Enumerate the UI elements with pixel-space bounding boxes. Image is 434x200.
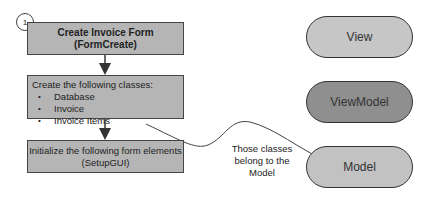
step-create-classes: Create the following classes: Database I… xyxy=(27,75,184,119)
step-subtitle: (FormCreate) xyxy=(74,39,137,51)
step-subtitle: (SetupGUI) xyxy=(81,157,129,169)
step-create-invoice-form: Create Invoice Form (FormCreate) xyxy=(27,22,184,55)
class-item: Invoice Items xyxy=(38,115,179,127)
step-title: Create Invoice Form xyxy=(57,27,153,39)
annotation-line: belong to the xyxy=(222,155,302,167)
step-title: Create the following classes: xyxy=(32,79,179,91)
annotation-line: Model xyxy=(222,167,302,179)
annotation-text: Those classes belong to the Model xyxy=(222,143,302,179)
step-initialize-form: Initialize the following form elements (… xyxy=(27,140,184,173)
step-title: Initialize the following form elements xyxy=(29,145,182,157)
layer-model: Model xyxy=(306,146,413,188)
annotation-line: Those classes xyxy=(222,143,302,155)
class-list: Database Invoice Invoice Items xyxy=(32,91,179,127)
layer-view: View xyxy=(306,16,413,58)
layer-viewmodel: ViewModel xyxy=(306,81,413,123)
class-item: Database xyxy=(38,91,179,103)
class-item: Invoice xyxy=(38,103,179,115)
